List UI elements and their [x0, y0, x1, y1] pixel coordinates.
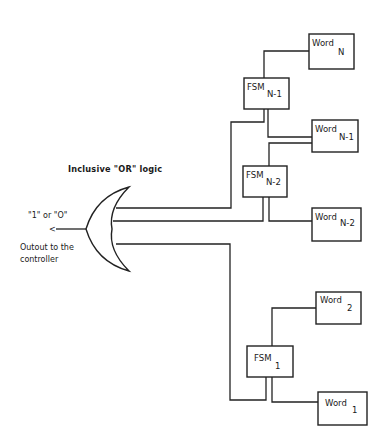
- wire-word-n-to-fsm-n-1: [264, 51, 309, 78]
- wire-gate-to-fsm-n-2: [113, 197, 263, 221]
- wire-word-2-to-fsm-1: [272, 308, 316, 346]
- svg-text:Word: Word: [320, 295, 342, 305]
- word-n-block: Word N: [309, 34, 354, 69]
- svg-text:Word: Word: [315, 212, 337, 222]
- svg-text:FSM: FSM: [247, 82, 264, 92]
- fsm-1-block: FSM 1: [247, 346, 293, 377]
- wire-fsm-1-to-word-1: [272, 377, 318, 402]
- wire-gate-to-fsm-n-1: [116, 109, 264, 208]
- output-caption-line2: controller: [20, 255, 59, 264]
- word-2-block: Word 2: [316, 292, 361, 324]
- svg-text:FSM: FSM: [254, 353, 271, 363]
- svg-text:2: 2: [347, 303, 352, 313]
- svg-text:1: 1: [352, 405, 357, 415]
- svg-text:N: N: [338, 47, 344, 57]
- wire-fsm-n-1-to-word-n-1: [268, 109, 312, 137]
- word-n-2-block: Word N-2: [312, 208, 361, 241]
- fsm-n-1-block: FSM N-1: [244, 78, 289, 109]
- output-caption-line1: Outout to the: [20, 243, 74, 252]
- fsm-n-2-block: FSM N-2: [243, 166, 287, 197]
- output-value-label: "1" or "O": [28, 211, 67, 220]
- wire-fsm-n-2-to-word-n-2: [269, 197, 312, 221]
- word-1-block: Word 1: [318, 392, 367, 425]
- word-n-1-block: Word N-1: [312, 120, 358, 152]
- wire-word-n-1-to-fsm-n-2: [269, 143, 312, 166]
- svg-text:Word: Word: [325, 398, 347, 408]
- svg-text:Word: Word: [315, 124, 337, 134]
- wire-gate-to-fsm-1: [116, 244, 266, 400]
- or-logic-title: Inclusive "OR" logic: [68, 164, 162, 174]
- svg-text:N-1: N-1: [339, 132, 354, 142]
- svg-text:Word: Word: [312, 38, 334, 48]
- svg-text:N-2: N-2: [340, 218, 355, 228]
- fsm-or-logic-diagram: Inclusive "OR" logic < "1" or "O" Outout…: [0, 0, 388, 445]
- svg-text:FSM: FSM: [246, 170, 263, 180]
- svg-text:N-1: N-1: [267, 89, 282, 99]
- svg-text:N-2: N-2: [266, 177, 281, 187]
- output-arrow-icon: <: [49, 225, 56, 234]
- svg-text:1: 1: [275, 361, 280, 371]
- or-gate-symbol: [86, 187, 129, 271]
